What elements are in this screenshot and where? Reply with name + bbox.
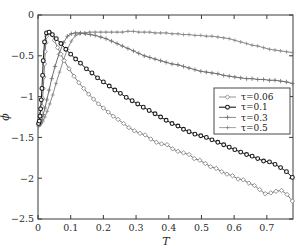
data-point-marker (54, 37, 58, 41)
data-point-marker (214, 166, 218, 170)
data-point-marker (227, 145, 231, 149)
data-point-marker (138, 131, 142, 135)
data-point-marker (236, 177, 240, 181)
data-point-marker (176, 149, 180, 153)
data-point-marker (130, 99, 134, 103)
data-point-marker (40, 87, 44, 91)
data-point-marker (225, 172, 229, 176)
x-tick-label: 0.5 (194, 222, 209, 233)
data-point-marker (41, 73, 45, 77)
data-point-marker (141, 105, 145, 109)
data-point-marker (59, 42, 63, 46)
data-point-marker (230, 174, 234, 178)
x-tick-label: 0.3 (129, 222, 144, 233)
data-point-marker (39, 107, 43, 111)
data-point-marker (199, 134, 203, 138)
x-tick-label: 0.6 (227, 222, 242, 233)
chart-legend: τ=0.06τ=0.1τ=0.3τ=0.5 (214, 88, 290, 134)
chart-figure: 00.10.20.30.40.50.60.7 0−0.5−1−1.5−2−2.5… (0, 0, 307, 250)
data-point-marker (210, 138, 214, 142)
data-point-marker (55, 45, 59, 49)
legend-label: τ=0.3 (241, 113, 268, 123)
data-point-marker (170, 122, 174, 126)
data-point-marker (233, 148, 237, 152)
data-point-marker (107, 84, 111, 88)
data-point-marker (220, 169, 224, 173)
data-point-marker (64, 47, 68, 51)
data-point-marker (182, 127, 186, 131)
data-point-marker (204, 136, 208, 140)
data-point-marker (90, 71, 94, 75)
x-axis-label: T (162, 235, 171, 248)
data-point-marker (38, 114, 42, 118)
x-tick-label: 0.2 (96, 222, 111, 233)
y-tick-label: −1.5 (11, 132, 34, 143)
data-point-marker (39, 98, 43, 102)
data-point-marker (290, 175, 294, 179)
data-point-marker (239, 150, 243, 154)
data-point-marker (241, 178, 245, 182)
data-point-marker (153, 112, 157, 116)
y-tick-label: −1 (20, 91, 34, 102)
data-point-marker (279, 166, 283, 170)
data-point-marker (159, 115, 163, 119)
data-point-marker (269, 191, 273, 195)
data-point-marker (262, 159, 266, 163)
data-point-marker (268, 160, 272, 164)
legend-label: τ=0.1 (241, 102, 268, 112)
data-point-marker (273, 162, 277, 166)
data-point-marker (154, 140, 158, 144)
data-point-marker (84, 67, 88, 71)
line-chart: 00.10.20.30.40.50.60.7 0−0.5−1−1.5−2−2.5… (0, 0, 307, 250)
data-point-marker (245, 153, 249, 157)
data-point-marker (164, 118, 168, 122)
data-point-marker (74, 57, 78, 61)
data-point-marker (147, 109, 151, 113)
x-tick-label: 0.1 (63, 222, 78, 233)
data-point-marker (247, 181, 251, 185)
y-tick-label: 0 (28, 9, 34, 20)
x-tick-label: 0 (35, 222, 41, 233)
data-point-marker (216, 140, 220, 144)
data-point-marker (181, 151, 185, 155)
x-tick-label: 0.4 (161, 222, 176, 233)
data-point-marker (79, 61, 83, 65)
data-point-marker (96, 76, 100, 80)
y-axis-label: ϕ (0, 113, 12, 121)
data-point-marker (101, 80, 105, 84)
y-tick-label: −0.5 (11, 50, 34, 61)
data-point-marker (285, 170, 289, 174)
data-point-marker (124, 96, 128, 100)
data-point-marker (118, 91, 122, 95)
data-point-marker (37, 119, 41, 123)
x-tick-label: 0.7 (259, 222, 274, 233)
data-point-marker (198, 158, 202, 162)
data-point-marker (226, 105, 230, 109)
y-tick-label: −2 (20, 173, 34, 184)
data-point-marker (222, 143, 226, 147)
data-point-marker (41, 59, 45, 63)
legend-label: τ=0.5 (241, 123, 268, 133)
data-point-marker (69, 52, 73, 56)
data-point-marker (50, 33, 54, 37)
data-point-marker (250, 154, 254, 158)
legend-label: τ=0.06 (241, 92, 274, 102)
data-point-marker (113, 88, 117, 92)
y-tick-label: −2.5 (11, 213, 34, 224)
data-point-marker (176, 124, 180, 128)
data-point-marker (136, 102, 140, 106)
data-point-marker (274, 189, 278, 193)
data-point-marker (193, 132, 197, 136)
data-point-marker (43, 40, 47, 44)
data-point-marker (132, 129, 136, 133)
data-point-marker (187, 130, 191, 134)
data-point-marker (256, 157, 260, 161)
data-point-marker (159, 142, 163, 146)
